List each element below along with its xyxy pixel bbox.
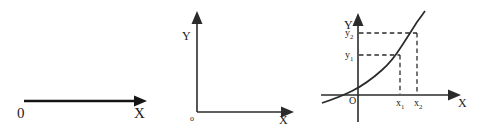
panel3-y-tick-label-2: y2 xyxy=(345,28,353,41)
panel-exponential-curve xyxy=(0,0,481,134)
panel3-x-tick-1-sub: 1 xyxy=(401,103,404,110)
panel3-y-arrowhead xyxy=(353,13,364,26)
panel3-curve xyxy=(322,11,425,103)
panel3-x-axis-label: X xyxy=(458,97,467,109)
panel3-y-tick-1-sub: 1 xyxy=(350,55,353,62)
panel3-x-tick-label-1: x1 xyxy=(396,98,404,111)
panel3-y-tick-2-sub: 2 xyxy=(350,33,353,40)
figure-root: 0 X Y o X Y y2 y1 O x1 x2 X xyxy=(0,0,481,134)
panel3-x-tick-2-sub: 2 xyxy=(419,103,422,110)
panel3-origin-label: O xyxy=(349,96,356,106)
panel3-x-tick-label-2: x2 xyxy=(414,98,422,111)
panel3-y-tick-label-1: y1 xyxy=(345,50,353,63)
